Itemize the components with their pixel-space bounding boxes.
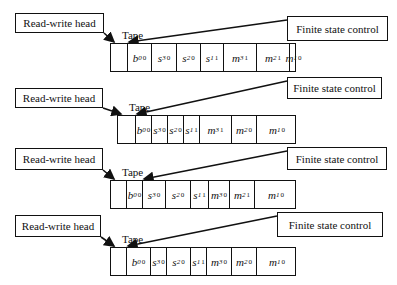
tape-cell: s20 — [177, 44, 201, 71]
read-write-head-arrow — [103, 170, 114, 179]
machine-state-panel-3: Read-write headFinite state controlTapeb… — [0, 140, 397, 210]
tape-cell: m20 — [232, 116, 257, 143]
read-write-head-box: Read-write head — [15, 88, 103, 108]
tape-cell: s11 — [184, 116, 200, 143]
tape-label: Tape — [122, 233, 143, 245]
tape-cell: b00 — [136, 116, 152, 143]
finite-state-control-arrow — [129, 20, 287, 42]
tape-cell: s30 — [152, 44, 177, 71]
tape-cell: b00 — [127, 248, 151, 275]
tape-cell: m31 — [200, 116, 232, 143]
tape-cell: s11 — [201, 44, 224, 71]
finite-state-control-arrow — [128, 216, 277, 246]
finite-state-control-arrow — [137, 81, 287, 114]
tape-label: Tape — [129, 101, 150, 113]
finite-state-control-box: Finite state control — [287, 77, 382, 99]
tape-cell: s11 — [191, 248, 207, 275]
tape-cell-blank — [111, 44, 128, 71]
tape: b00s30s20s11m30m21m10 — [110, 180, 296, 209]
tape-label: Tape — [122, 29, 143, 41]
tape-cell: m31 — [224, 44, 257, 71]
tape-cell: s20 — [168, 116, 184, 143]
finite-state-control-arrow — [144, 151, 287, 179]
read-write-head-arrow — [101, 237, 114, 246]
tape-cell: m30 — [207, 248, 232, 275]
tape: b00s30s20s11m31m21m10 — [110, 43, 296, 72]
finite-state-control-box: Finite state control — [287, 16, 388, 41]
tape-cell: m10 — [257, 116, 297, 143]
tape-cell: s20 — [166, 181, 191, 208]
tape-cell: s11 — [191, 181, 209, 208]
tape-cell: m30 — [209, 181, 230, 208]
machine-state-panel-2: Read-write headFinite state controlTapeb… — [0, 75, 397, 145]
tape-cell-blank — [111, 248, 127, 275]
read-write-head-arrow — [104, 33, 114, 42]
tape: b00s30s20s11m30m20m10 — [110, 247, 296, 276]
tape-cell-blank — [111, 181, 127, 208]
machine-state-panel-1: Read-write headFinite state controlTapeb… — [0, 4, 397, 74]
finite-state-control-box: Finite state control — [287, 147, 387, 170]
machine-state-panel-4: Read-write headFinite state controlTapeb… — [0, 208, 397, 278]
tape-cell: m10 — [255, 181, 297, 208]
tape-cell: s20 — [167, 248, 191, 275]
tape-cell-blank — [118, 116, 136, 143]
tape-cell: m10 — [257, 248, 297, 275]
tape-cell: s30 — [152, 116, 168, 143]
tape-cell: s30 — [143, 181, 166, 208]
tape-cell: m21 — [230, 181, 255, 208]
tape-cell: s30 — [151, 248, 167, 275]
tape-cell: b00 — [127, 181, 143, 208]
finite-state-control-box: Finite state control — [277, 212, 383, 237]
tape-cell: b00 — [128, 44, 152, 71]
tape-cell: m10 — [290, 44, 297, 71]
read-write-head-box: Read-write head — [15, 13, 104, 33]
read-write-head-box: Read-write head — [15, 148, 103, 170]
tape-cell: m20 — [232, 248, 257, 275]
read-write-head-arrow — [103, 108, 121, 114]
tape-label: Tape — [122, 166, 143, 178]
read-write-head-box: Read-write head — [15, 215, 101, 237]
